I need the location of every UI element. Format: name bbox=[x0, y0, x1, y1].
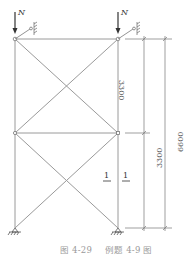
dimension-upper: 3300 bbox=[117, 80, 126, 100]
figure-number: 图 4-29 bbox=[60, 245, 92, 255]
dimension-total: 6600 bbox=[176, 132, 185, 152]
load-arrow-left bbox=[13, 12, 18, 34]
section-mark-left: 1 bbox=[104, 171, 109, 180]
load-label-left: N bbox=[18, 8, 25, 17]
joint-mid-right bbox=[117, 132, 120, 135]
braced-frame-diagram bbox=[0, 0, 186, 266]
load-label-right: N bbox=[121, 8, 128, 17]
figure-caption: 图 4-29 例题 4-9 图 bbox=[60, 243, 163, 255]
lateral-restraint-right bbox=[118, 22, 140, 39]
figure-title: 例题 4-9 图 bbox=[105, 245, 153, 255]
dimension-lower: 3300 bbox=[155, 148, 164, 168]
load-arrow-right bbox=[116, 12, 121, 34]
lateral-restraint-left bbox=[15, 22, 37, 39]
joint-mid-left bbox=[13, 131, 16, 134]
pin-support-left bbox=[8, 228, 21, 235]
dimension-lines bbox=[125, 36, 172, 231]
section-mark-right: 1 bbox=[123, 171, 128, 180]
pin-support-right bbox=[111, 228, 124, 235]
